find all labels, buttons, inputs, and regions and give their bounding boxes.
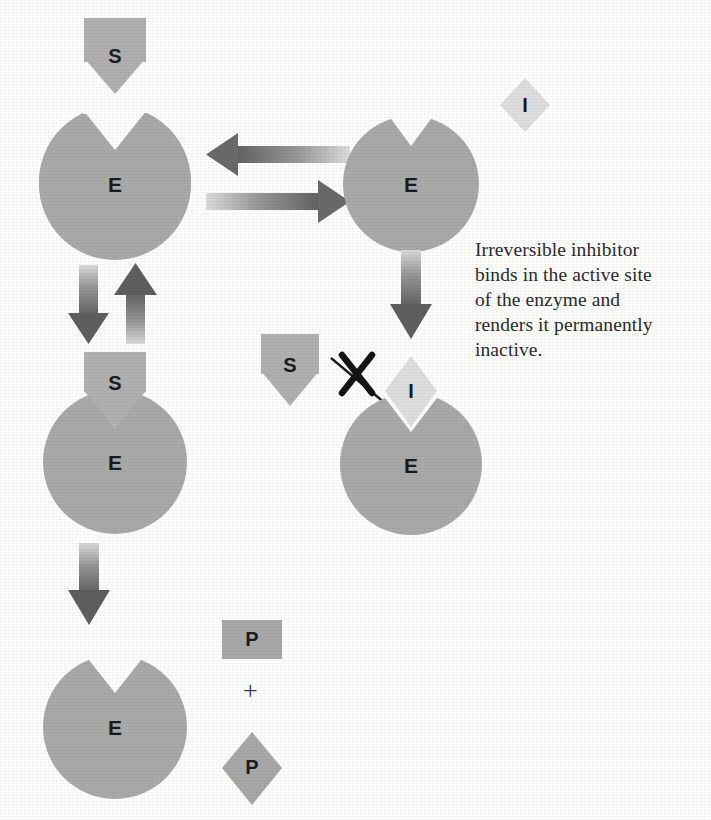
substrate-top-label: S [95, 46, 135, 66]
substrate-bound-label: S [95, 373, 135, 393]
enzyme-substrate-complex-label: E [95, 452, 135, 473]
inhibition-arrow [390, 250, 432, 339]
caption-line-4: renders it permanently [475, 313, 707, 338]
complex-form-arrow [68, 265, 109, 344]
product-rect-label: P [232, 629, 272, 649]
inhibition-caption: Irreversible inhibitor binds in the acti… [475, 238, 707, 363]
product-plus-sign: + [243, 678, 258, 704]
complex-reverse-arrow [114, 263, 157, 344]
caption-line-5: inactive. [475, 338, 707, 363]
caption-line-3: of the enzyme and [475, 288, 707, 313]
enzyme-regenerated-label: E [95, 717, 135, 738]
enzyme-free-left-label: E [95, 174, 135, 195]
inhibitor-free-label: I [505, 95, 545, 115]
reversible-arrow-right [206, 180, 350, 223]
diagram-canvas [0, 0, 711, 820]
product-diamond-label: P [232, 757, 272, 777]
inhibitor-bound-label: I [391, 381, 431, 401]
caption-line-2: binds in the active site [475, 263, 707, 288]
enzyme-free-right-label: E [391, 174, 431, 195]
caption-line-1: Irreversible inhibitor [475, 238, 707, 263]
substrate-blocked-label: S [270, 355, 310, 375]
product-release-arrow [68, 543, 110, 625]
enzyme-inhibition-diagram: S E E I S E S I E E P + P Irreversible i… [0, 0, 711, 820]
enzyme-inhibited-label: E [391, 455, 431, 476]
blocking-x-mark [342, 355, 372, 393]
reversible-arrow-left [206, 131, 352, 176]
